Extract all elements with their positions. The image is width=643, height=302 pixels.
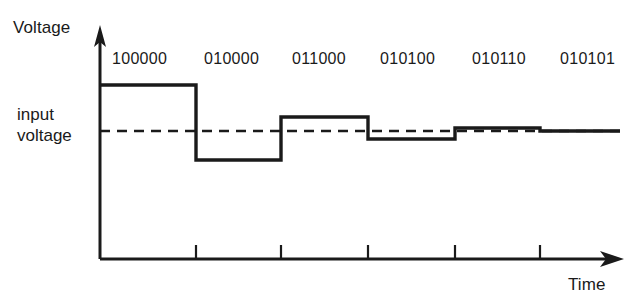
plot-area [0, 0, 643, 302]
adc-convergence-figure: Voltage input voltage 100000 010000 0110… [0, 0, 643, 302]
x-axis-ticks [196, 245, 540, 259]
dac-output-waveform [100, 85, 620, 160]
x-axis-label: Time [568, 275, 606, 295]
